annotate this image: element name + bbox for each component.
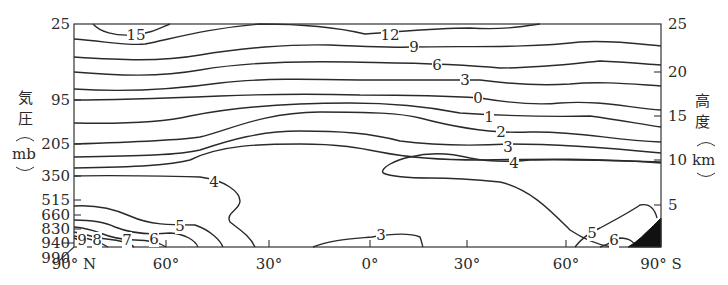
contour-line (74, 103, 661, 127)
contour-label: 0 (473, 89, 483, 107)
y-left-axis-title-char: 圧 (18, 110, 33, 128)
contour-label: 3 (376, 226, 386, 244)
contour-label: 9 (409, 38, 419, 56)
contour-line (74, 94, 661, 110)
contour-label: 3 (460, 71, 470, 89)
y-right-tick-label: 20 (668, 63, 687, 81)
contour-line (74, 61, 661, 75)
contour-label: 7 (122, 231, 132, 249)
x-tick-label: 30° (454, 255, 481, 273)
contour-line (313, 234, 423, 247)
paren-top (16, 138, 34, 142)
y-left-tick-label: 205 (41, 135, 70, 153)
contour-label: 6 (609, 231, 619, 249)
contour-label: 1 (484, 108, 494, 126)
plot-frame (74, 24, 661, 247)
y-right-axis-unit: km (692, 151, 715, 169)
x-tick-label: 60° (153, 255, 180, 273)
x-tick-label: 90° S (640, 255, 682, 273)
contour-chart: 90° N60°30°0°30°60°90° S 259520535051566… (0, 0, 728, 285)
contour-line (74, 131, 661, 157)
contour-line (74, 41, 661, 59)
y-right-tick-labels: 252015105 (668, 15, 687, 214)
x-tick-label: 30° (256, 255, 283, 273)
y-left-tick-label: 95 (51, 91, 70, 109)
paren-top (697, 143, 715, 147)
y-right-axis-title-char: 度 (695, 113, 710, 131)
x-tick-label: 60° (553, 255, 580, 273)
y-right-tick-label: 10 (668, 151, 687, 169)
contour-label: 5 (587, 224, 597, 242)
contour-label: 9 (77, 231, 87, 249)
y-right-tick-label: 5 (668, 196, 678, 214)
y-left-tick-labels: 2595205350515660830940990 (41, 15, 70, 267)
y-left-axis-title-char: 気 (18, 89, 33, 107)
contour-label: 5 (175, 217, 185, 235)
contour-line (74, 144, 661, 168)
y-left-axis-unit: mb (12, 145, 36, 163)
contour-label: 6 (149, 230, 159, 248)
contour-line (383, 154, 661, 173)
contour-label: 12 (380, 26, 399, 44)
y-right-axis-title-char: 高 (695, 92, 710, 110)
x-tick-label: 0° (361, 255, 378, 273)
y-right-tick-label: 25 (668, 15, 687, 33)
contour-label: 4 (509, 154, 519, 172)
y-left-tick-label: 990 (41, 249, 70, 267)
y-left-tick-label: 350 (41, 167, 70, 185)
contour-lines (74, 24, 661, 247)
y-right-tick-label: 15 (668, 107, 687, 125)
paren-bottom (16, 167, 34, 171)
y-left-tick-label: 25 (51, 15, 70, 33)
paren-bottom (697, 173, 715, 177)
contour-label: 4 (209, 173, 219, 191)
contour-label: 6 (432, 56, 442, 74)
contour-line (74, 79, 661, 90)
axis-titles: 気圧mb高度km (12, 89, 715, 177)
contour-label: 15 (126, 26, 145, 44)
contour-label: 8 (92, 231, 102, 249)
x-axis-tick-labels: 90° N60°30°0°30°60°90° S (52, 255, 682, 273)
